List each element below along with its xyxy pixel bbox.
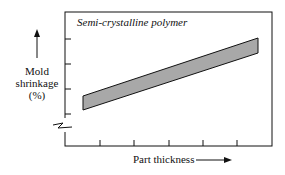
y-axis-label: Mold shrinkage (%)	[14, 65, 60, 101]
y-label-line-2: shrinkage	[14, 77, 60, 89]
x-axis-label: Part thickness	[133, 153, 194, 165]
shrinkage-band	[83, 38, 258, 110]
y-ticks	[65, 39, 71, 114]
x-ticks	[100, 140, 237, 146]
chart-title: Semi-crystalline polymer	[77, 16, 187, 28]
y-label-line-1: Mold	[14, 65, 60, 77]
y-label-line-3: (%)	[14, 89, 60, 101]
